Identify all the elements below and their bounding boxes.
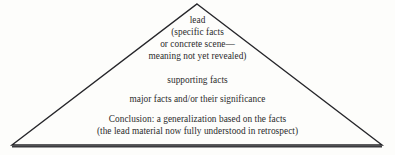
conclusion-label-line-2: (the lead material now fully understood … (0, 126, 395, 138)
lead-label-line-3: or concrete scene— (0, 39, 395, 51)
major-facts-label: major facts and/or their significance (0, 94, 395, 106)
diagram-text-layer: lead (specific facts or concrete scene— … (0, 0, 395, 155)
diagram-canvas: lead (specific facts or concrete scene— … (0, 0, 395, 155)
lead-label-line-4: meaning not yet revealed) (0, 51, 395, 63)
lead-label-line-2: (specific facts (0, 27, 395, 39)
conclusion-label-line-1: Conclusion: a generalization based on th… (0, 114, 395, 126)
lead-label-line-1: lead (0, 15, 395, 27)
supporting-facts-label: supporting facts (0, 75, 395, 87)
